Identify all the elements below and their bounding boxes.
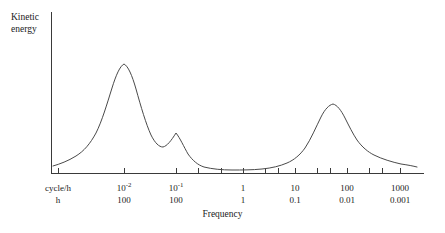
x-axis-label: Frequency	[0, 209, 445, 219]
x-tick-unit-bottom: h	[45, 195, 71, 207]
kinetic-energy-frequency-chart: Kineticenergy cycle/h h 10-2 100	[0, 0, 445, 233]
x-tick-bottom-2: 1	[241, 195, 246, 207]
x-tick-label-5: 1000 0.001	[390, 183, 410, 206]
x-tick-label-1: 10-1 100	[169, 183, 184, 206]
x-tick-bottom-5: 0.001	[390, 195, 410, 207]
x-tick-bottom-1: 100	[169, 195, 184, 207]
x-tick-bottom-4: 0.01	[339, 195, 355, 207]
x-tick-label-4: 100 0.01	[339, 183, 355, 206]
spectrum-curve	[53, 64, 417, 170]
x-tick-top-0: 10-2	[117, 183, 132, 195]
x-tick-top-4: 100	[339, 183, 355, 195]
x-tick-top-1: 10-1	[169, 183, 184, 195]
x-tick-bottom-3: 0.1	[289, 195, 300, 207]
x-tick-unit-top: cycle/h	[45, 183, 71, 195]
x-tick-label-unit: cycle/h h	[45, 183, 71, 206]
x-tick-top-5: 1000	[390, 183, 410, 195]
x-tick-label-0: 10-2 100	[117, 183, 132, 206]
x-tick-bottom-0: 100	[117, 195, 132, 207]
x-tick-label-2: 1 1	[241, 183, 246, 206]
x-tick-label-3: 10 0.1	[289, 183, 300, 206]
x-tick-top-3: 10	[289, 183, 300, 195]
x-tick-top-2: 1	[241, 183, 246, 195]
x-axis-tick-marks	[59, 168, 401, 174]
